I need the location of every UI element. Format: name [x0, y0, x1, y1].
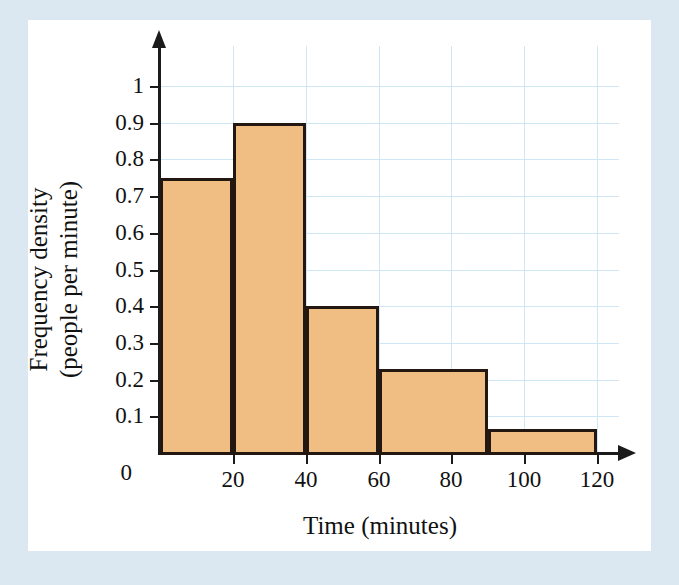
gridline-horizontal — [160, 159, 619, 160]
y-axis-tick — [150, 306, 159, 308]
y-axis-tick-label: 0.2 — [76, 368, 144, 391]
y-axis-tick — [150, 416, 159, 418]
y-axis-tick — [150, 123, 159, 125]
x-axis-title: Time (minutes) — [160, 512, 600, 540]
y-axis-arrow-icon — [152, 30, 166, 48]
y-axis-tick-label: 0.7 — [76, 184, 144, 207]
y-axis-tick — [150, 270, 159, 272]
y-axis-tick — [150, 233, 159, 235]
x-axis-tick-label: 120 — [562, 468, 632, 491]
x-axis-tick — [597, 455, 599, 464]
x-axis-tick-label: 60 — [344, 468, 414, 491]
gridline-horizontal — [160, 86, 619, 87]
figure-frame: 00.10.20.30.40.50.60.70.80.91 2040608010… — [0, 0, 679, 585]
y-axis-tick-label: 0 — [92, 461, 132, 484]
y-axis-title-line-1: Frequency density — [24, 115, 54, 445]
y-axis-tick — [150, 380, 159, 382]
histogram-bar — [488, 429, 597, 455]
histogram-bar — [306, 306, 379, 455]
y-axis-tick-label: 0.1 — [76, 404, 144, 427]
x-axis-tick-label: 40 — [271, 468, 341, 491]
y-axis-tick — [150, 159, 159, 161]
y-axis-title: Frequency density (people per minute) — [24, 115, 83, 445]
x-axis-tick — [306, 455, 308, 464]
y-axis-tick-label: 0.6 — [76, 221, 144, 244]
y-axis-tick — [150, 343, 159, 345]
x-axis-tick — [379, 455, 381, 464]
x-axis-tick — [451, 455, 453, 464]
y-axis-tick-label: 0.5 — [76, 258, 144, 281]
gridline-vertical — [597, 46, 598, 453]
y-axis-tick-label: 0.8 — [76, 147, 144, 170]
y-axis-tick-label: 0.9 — [76, 111, 144, 134]
histogram-bar — [379, 369, 488, 455]
histogram-chart: 00.10.20.30.40.50.60.70.80.91 2040608010… — [0, 0, 679, 585]
gridline-vertical — [524, 46, 525, 453]
gridline-horizontal — [160, 123, 619, 124]
x-axis-tick-label: 80 — [416, 468, 486, 491]
y-axis-title-line-2: (people per minute) — [53, 115, 83, 445]
y-axis-tick-label: 0.3 — [76, 331, 144, 354]
histogram-bar — [233, 123, 306, 455]
y-axis-tick — [150, 86, 159, 88]
x-axis-tick — [524, 455, 526, 464]
y-axis-tick-label: 1 — [76, 74, 144, 97]
x-axis-arrow-icon — [618, 445, 636, 461]
x-axis-tick-label: 100 — [489, 468, 559, 491]
x-axis-tick-label: 20 — [198, 468, 268, 491]
y-axis-tick — [150, 196, 159, 198]
x-axis-tick — [233, 455, 235, 464]
y-axis-tick-label: 0.4 — [76, 294, 144, 317]
histogram-bar — [160, 178, 233, 455]
